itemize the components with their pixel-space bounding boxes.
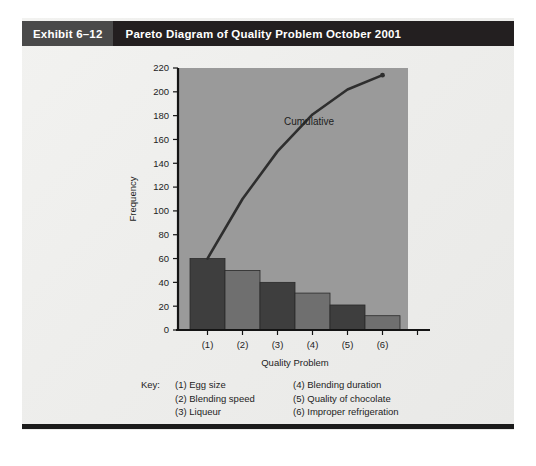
- x-tick-label: (4): [307, 339, 319, 350]
- key-label: Key:: [141, 378, 175, 419]
- pareto-chart: 020406080100120140160180200220 (1)(2)(3)…: [22, 46, 514, 430]
- y-tick-label: 160: [153, 134, 169, 145]
- x-axis-label: Quality Problem: [261, 357, 329, 368]
- exhibit-header-bar: Exhibit 6–12 Pareto Diagram of Quality P…: [22, 21, 514, 46]
- bar: [225, 270, 260, 330]
- key-item: (5) Quality of chocolate: [293, 392, 399, 406]
- key-legend: Key: (1) Egg size (2) Blending speed (3)…: [141, 378, 399, 419]
- y-tick-label: 180: [153, 110, 169, 121]
- y-tick-label: 220: [153, 62, 169, 73]
- x-tick-label: (2): [237, 339, 249, 350]
- key-item: (6) Improper refrigeration: [293, 405, 399, 419]
- key-column-2: (4) Blending duration (5) Quality of cho…: [293, 378, 399, 419]
- bar: [365, 316, 400, 330]
- key-column-1: (1) Egg size (2) Blending speed (3) Liqu…: [175, 378, 293, 419]
- x-tick-label: (5): [342, 339, 354, 350]
- bar: [190, 259, 225, 330]
- exhibit-title: Pareto Diagram of Quality Problem Octobe…: [113, 21, 402, 46]
- cumulative-endpoint: [380, 73, 385, 78]
- figure-page: Exhibit 6–12 Pareto Diagram of Quality P…: [0, 0, 536, 466]
- y-tick-label: 0: [164, 324, 169, 335]
- y-tick-label: 140: [153, 158, 169, 169]
- exhibit-number: Exhibit 6–12: [22, 21, 113, 46]
- x-tick-label: (6): [377, 339, 389, 350]
- bottom-rule: [22, 424, 514, 429]
- pareto-chart-svg: 020406080100120140160180200220 (1)(2)(3)…: [22, 46, 514, 386]
- key-item: (1) Egg size: [175, 378, 293, 392]
- bar: [260, 282, 295, 330]
- y-tick-label: 60: [158, 253, 169, 264]
- x-tick-label: (3): [272, 339, 284, 350]
- y-axis-label: Frequency: [127, 176, 138, 221]
- key-item: (3) Liqueur: [175, 405, 293, 419]
- key-item: (4) Blending duration: [293, 378, 399, 392]
- bar: [295, 293, 330, 330]
- y-tick-label: 100: [153, 205, 169, 216]
- key-item: (2) Blending speed: [175, 392, 293, 406]
- x-tick-label: (1): [202, 339, 214, 350]
- bar: [330, 305, 365, 330]
- y-tick-label: 40: [158, 277, 169, 288]
- y-tick-label: 200: [153, 86, 169, 97]
- y-axis-ticks: 020406080100120140160180200220: [153, 62, 178, 335]
- y-tick-label: 120: [153, 181, 169, 192]
- y-tick-label: 20: [158, 301, 169, 312]
- cumulative-annotation: Cumulative: [284, 116, 334, 127]
- x-axis-ticks: (1)(2)(3)(4)(5)(6): [202, 330, 418, 350]
- y-tick-label: 80: [158, 229, 169, 240]
